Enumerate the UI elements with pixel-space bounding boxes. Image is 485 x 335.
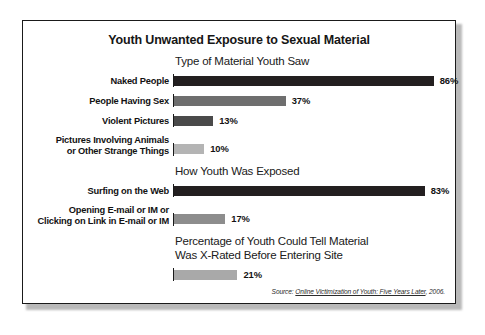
bar-label-line: Naked People: [23, 76, 169, 87]
section-header-could-tell-x-rated: Was X-Rated Before Entering Site: [175, 249, 343, 261]
bar-label: People Having Sex: [23, 96, 169, 107]
bar-label: Violent Pictures: [23, 116, 169, 127]
bar-label: Opening E-mail or IM orClicking on Link …: [23, 205, 169, 226]
figure-page: Youth Unwanted Exposure to Sexual Materi…: [0, 0, 485, 335]
chart-figure-frame: Youth Unwanted Exposure to Sexual Materi…: [22, 20, 456, 304]
section-header-type-of-material: Type of Material Youth Saw: [175, 55, 309, 67]
bar-label-line: Pictures Involving Animals: [23, 135, 169, 146]
chart-row: Pictures Involving Animalsor Other Stran…: [23, 133, 455, 155]
bar-value-label: 86%: [440, 76, 458, 86]
bar-label: Pictures Involving Animalsor Other Stran…: [23, 135, 169, 156]
bar-label: Naked People: [23, 76, 169, 87]
bar: [174, 96, 286, 106]
bar-value-label: 37%: [292, 96, 310, 106]
page-title: Youth Unwanted Exposure to Sexual Materi…: [23, 33, 455, 47]
bar-value-label: 83%: [431, 186, 449, 196]
bar-value-label: 13%: [219, 116, 237, 126]
bar: [174, 76, 434, 86]
bar-value-label: 17%: [231, 214, 249, 224]
source-title: Online Victimization of Youth: Five Year…: [295, 288, 425, 295]
bar-value-label: 21%: [243, 270, 261, 280]
source-year: , 2006.: [426, 288, 445, 295]
bar: [174, 116, 213, 126]
bar-label-line: People Having Sex: [23, 96, 169, 107]
bar-label-line: Surfing on the Web: [23, 186, 169, 197]
source-prefix: Source:: [272, 288, 294, 295]
section-header-could-tell-x-rated: Percentage of Youth Could Tell Material: [175, 235, 368, 247]
bar: [174, 214, 225, 224]
chart-row: [23, 267, 455, 283]
bar-label-line: Clicking on Link in E-mail or IM: [23, 216, 169, 227]
bar-label-line: or Other Strange Things: [23, 146, 169, 157]
bar-label-line: Opening E-mail or IM or: [23, 205, 169, 216]
source-note: Source: Online Victimization of Youth: F…: [272, 288, 445, 295]
bar: [174, 144, 204, 154]
chart-row: Violent Pictures: [23, 113, 455, 129]
bar-label-line: Violent Pictures: [23, 116, 169, 127]
bar: [174, 186, 425, 196]
section-header-how-exposed: How Youth Was Exposed: [175, 165, 300, 177]
bar-value-label: 10%: [210, 144, 228, 154]
bar: [174, 270, 237, 280]
bar-label: Surfing on the Web: [23, 186, 169, 197]
